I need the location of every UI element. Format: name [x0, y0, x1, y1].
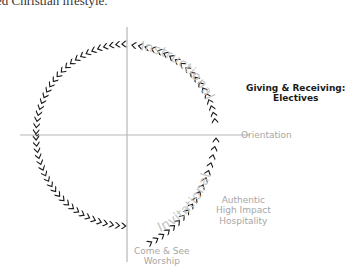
chevron-arrow-icon [50, 186, 59, 194]
chevron-arrow-icon [152, 235, 160, 243]
chevron-arrow-icon [208, 104, 216, 111]
chevron-arrow-icon [33, 141, 40, 147]
chevron-arrow-icon [96, 218, 103, 226]
chevron-arrow-icon [96, 44, 103, 52]
chevron-arrow-icon [211, 118, 218, 124]
giving-line2: Electives [246, 93, 345, 103]
chevron-arrow-icon [108, 42, 115, 49]
giving-receiving-label: Giving & Receiving: Electives [246, 83, 345, 104]
chevron-arrow-icon [33, 135, 40, 141]
chevron-arrow-icon [73, 207, 81, 216]
chevron-arrow-icon [78, 51, 86, 59]
orientation-text: Orientation [241, 130, 292, 140]
giving-line1: Giving & Receiving: [246, 83, 345, 93]
authentic-line1: Authentic [216, 195, 271, 205]
chevron-arrow-icon [207, 161, 215, 168]
come-line2: Worship [134, 256, 190, 266]
chevron-arrow-icon [35, 153, 43, 160]
chevron-arrow-icon [84, 49, 92, 57]
chevron-arrow-icon [114, 222, 120, 229]
chevron-arrow-icon [211, 145, 218, 152]
authentic-hospitality-label: Authentic High Impact Hospitality [216, 195, 271, 226]
chevron-arrow-icon [108, 221, 115, 228]
chevron-arrow-icon [84, 213, 92, 221]
instructional-label: Instructional [139, 38, 218, 102]
chevron-arrow-icon [209, 153, 217, 160]
chevron-arrow-icon [68, 58, 76, 67]
chevron-arrow-icon [131, 42, 138, 49]
chevron-arrow-icon [213, 137, 219, 143]
chevron-arrow-icon [41, 170, 49, 178]
chevron-arrow-icon [38, 164, 46, 172]
chevron-arrow-icon [35, 110, 43, 117]
chevron-arrow-icon [90, 46, 98, 54]
invitational-label: Invitational [155, 171, 213, 235]
chevron-arrow-icon [43, 175, 51, 183]
chevron-arrow-icon [78, 210, 86, 218]
chevron-arrow-icon [34, 147, 41, 154]
chevron-arrow-icon [33, 122, 40, 128]
chevron-arrow-icon [115, 41, 121, 48]
come-line1: Come & See [134, 246, 190, 256]
chevron-arrow-icon [33, 129, 40, 135]
chevron-arrow-icon [90, 216, 98, 224]
chevron-arrow-icon [121, 223, 127, 230]
chevron-arrow-icon [41, 92, 49, 100]
chevron-arrow-icon [38, 98, 46, 106]
chevron-arrow-icon [102, 220, 109, 228]
chevron-arrow-icon [121, 41, 127, 48]
authentic-line3: Hospitality [216, 216, 271, 226]
chevron-arrow-icon [44, 86, 52, 94]
chevron-arrow-icon [47, 81, 56, 89]
authentic-line2: High Impact [216, 205, 271, 215]
come-see-worship-label: Come & See Worship [134, 246, 190, 267]
chevron-arrow-icon [102, 43, 109, 51]
orientation-label: Orientation [241, 130, 292, 140]
chevron-arrow-icon [47, 181, 56, 189]
chevron-arrow-icon [36, 104, 44, 111]
chevron-arrow-icon [34, 116, 41, 123]
chevron-arrow-icon [210, 111, 218, 118]
chevron-arrow-icon [36, 159, 44, 166]
chevron-arrow-icon [73, 55, 81, 64]
